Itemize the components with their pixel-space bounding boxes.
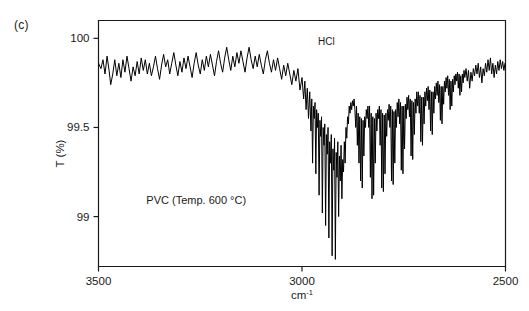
y-tick-label: 99 [77, 211, 90, 223]
x-tick-label: 3000 [289, 275, 315, 287]
spectrum-trace [99, 47, 506, 259]
spectrum-plot: 10099.599350030002500 cm-1T (%) HClPVC (… [0, 0, 529, 311]
hcl-label: HCl [318, 36, 335, 47]
y-tick-label: 100 [70, 32, 89, 44]
plot-frame [99, 21, 506, 267]
x-tick-label: 3500 [86, 275, 112, 287]
axis-ticks: 10099.599350030002500 [67, 32, 518, 286]
transmittance-curve [99, 47, 506, 259]
figure-panel: (c) 10099.599350030002500 cm-1T (%) HClP… [0, 0, 529, 311]
x-tick-label: 2500 [493, 275, 519, 287]
chart-annotations: HClPVC (Temp. 600 °C) [146, 36, 334, 206]
x-axis-title: cm-1 [291, 288, 313, 301]
y-tick-label: 99.5 [67, 121, 89, 133]
y-axis-title: T (%) [54, 139, 66, 167]
sample-label: PVC (Temp. 600 °C) [146, 194, 246, 206]
